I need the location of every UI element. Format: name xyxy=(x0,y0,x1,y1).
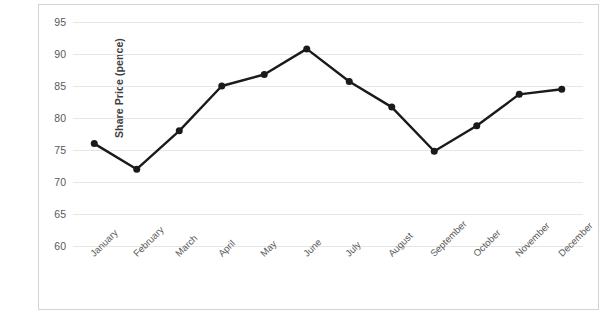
y-tick-label: 70 xyxy=(54,176,66,188)
plot-area: 9590858075706560 JanuaryFebruaryMarchApr… xyxy=(73,22,583,246)
y-tick-label: 85 xyxy=(54,80,66,92)
data-point-marker[interactable] xyxy=(218,83,225,90)
y-tick-label: 95 xyxy=(54,16,66,28)
data-point-marker[interactable] xyxy=(176,127,183,134)
data-point-marker[interactable] xyxy=(431,148,438,155)
data-point-marker[interactable] xyxy=(303,45,310,52)
data-point-marker[interactable] xyxy=(261,71,268,78)
data-point-marker[interactable] xyxy=(516,91,523,98)
y-tick-label: 65 xyxy=(54,208,66,220)
y-tick-label: 90 xyxy=(54,48,66,60)
y-tick-label: 60 xyxy=(54,240,66,252)
line-series-layer xyxy=(73,22,583,246)
chart-page: Share Price (pence) 9590858075706560 Jan… xyxy=(0,0,603,323)
data-point-marker[interactable] xyxy=(473,122,480,129)
data-point-marker[interactable] xyxy=(558,86,565,93)
y-tick-label: 75 xyxy=(54,144,66,156)
data-point-marker[interactable] xyxy=(388,104,395,111)
data-point-marker[interactable] xyxy=(133,166,140,173)
data-point-marker[interactable] xyxy=(346,78,353,85)
chart-frame: Share Price (pence) 9590858075706560 Jan… xyxy=(38,4,599,310)
line-series-path xyxy=(94,49,562,169)
y-tick-label: 80 xyxy=(54,112,66,124)
data-point-marker[interactable] xyxy=(91,140,98,147)
